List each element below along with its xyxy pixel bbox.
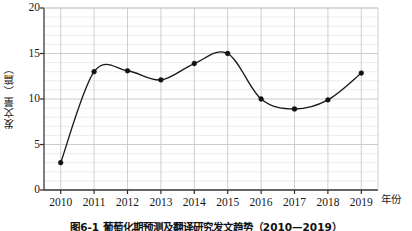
x-tick-label: 2018	[316, 196, 339, 208]
x-tick-label: 2011	[83, 196, 106, 208]
x-tick-label: 2015	[216, 196, 239, 208]
figure-container: 发文量（篇） 05101520 201020112012201320142015…	[0, 0, 412, 231]
x-tick-label: 2012	[116, 196, 139, 208]
x-tick-label: 2014	[183, 196, 206, 208]
x-tick-label: 2010	[49, 196, 72, 208]
x-tick-label: 2016	[250, 196, 273, 208]
x-tick-label: 2013	[149, 196, 172, 208]
x-tick-label: 2017	[283, 196, 306, 208]
x-tick-label: 2019	[350, 196, 373, 208]
figure-caption: 图6-1 葡萄化期预测及翻译研究发文趋势（2010—2019）	[0, 219, 412, 231]
x-axis-title: 年份	[381, 191, 401, 206]
x-axis-tick-labels: 2010201120122013201420152016201720182019	[0, 0, 412, 231]
